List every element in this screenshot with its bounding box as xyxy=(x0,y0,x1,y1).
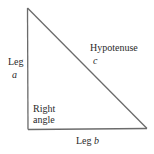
leg-a-label: Leg xyxy=(8,57,24,67)
right-triangle-diagram: Leg a Hypotenuse c Right angle Leg b xyxy=(0,0,154,154)
leg-a-line xyxy=(28,8,29,130)
hypotenuse-label: Hypotenuse xyxy=(90,43,138,53)
hypotenuse-variable: c xyxy=(93,56,97,66)
triangle-graphic xyxy=(0,0,154,154)
leg-b-variable: b xyxy=(94,136,99,146)
leg-a-variable: a xyxy=(12,70,17,80)
leg-b-line xyxy=(28,129,147,130)
right-angle-label-line2: angle xyxy=(33,115,55,125)
right-angle-label-line1: Right xyxy=(33,104,55,114)
leg-b-label: Leg xyxy=(76,136,92,146)
